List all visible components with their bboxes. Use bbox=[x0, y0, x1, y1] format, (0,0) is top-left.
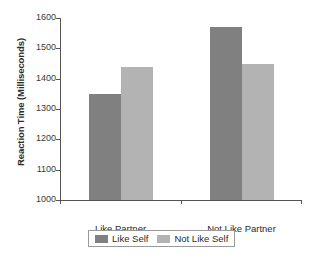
y-tick-mark bbox=[56, 79, 60, 80]
y-tick-mark bbox=[56, 18, 60, 19]
plot-area: 1000110012001300140015001600 Like Partne… bbox=[60, 18, 302, 200]
bar-chart-figure: Reaction Time (Milliseconds) 10001100120… bbox=[0, 0, 312, 259]
legend-entry: Like Self bbox=[95, 234, 148, 244]
bar bbox=[121, 67, 153, 200]
y-tick-label: 1100 bbox=[8, 165, 56, 174]
chart-legend: Like SelfNot Like Self bbox=[88, 230, 235, 247]
y-tick-label: 1200 bbox=[8, 134, 56, 143]
y-tick-label: 1300 bbox=[8, 104, 56, 113]
legend-swatch-icon bbox=[95, 235, 108, 243]
y-tick-label: 1400 bbox=[8, 74, 56, 83]
y-axis-tick-labels: 1000110012001300140015001600 bbox=[4, 18, 56, 200]
x-tick-mark bbox=[301, 200, 302, 204]
y-tick-label: 1600 bbox=[8, 13, 56, 22]
y-tick-label: 1000 bbox=[8, 195, 56, 204]
y-axis-line bbox=[60, 18, 61, 201]
y-tick-mark bbox=[56, 170, 60, 171]
bar bbox=[89, 94, 121, 200]
x-tick-mark bbox=[60, 200, 61, 204]
y-tick-mark bbox=[56, 139, 60, 140]
legend-label: Not Like Self bbox=[174, 234, 228, 244]
bar bbox=[210, 27, 242, 200]
x-tick-mark bbox=[181, 200, 182, 204]
y-tick-mark bbox=[56, 109, 60, 110]
legend-entry: Not Like Self bbox=[157, 234, 228, 244]
legend-swatch-icon bbox=[157, 235, 170, 243]
y-tick-mark bbox=[56, 48, 60, 49]
bar bbox=[242, 64, 274, 201]
y-tick-label: 1500 bbox=[8, 43, 56, 52]
legend-label: Like Self bbox=[112, 234, 148, 244]
